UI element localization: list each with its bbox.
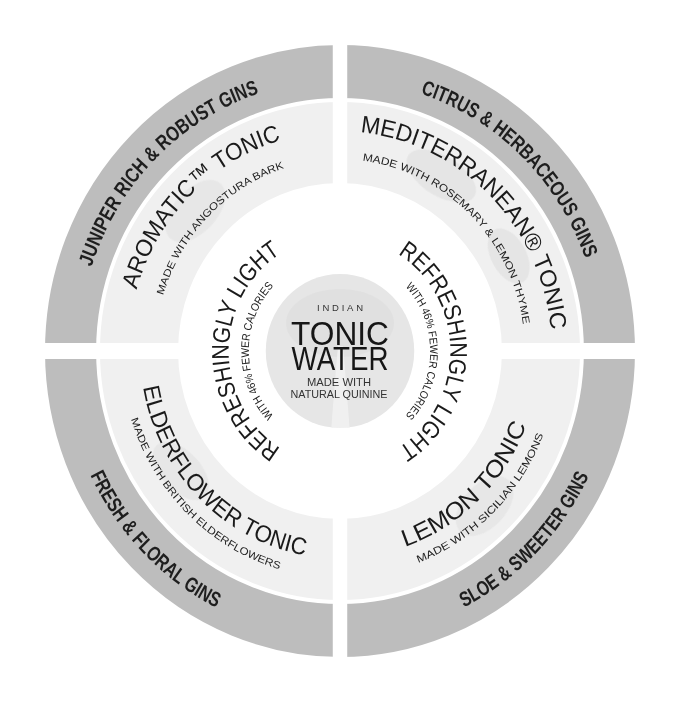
separator-top <box>333 39 347 185</box>
wheel-svg: JUNIPER RICH & ROBUST GINS CITRUS & HERB… <box>0 0 673 705</box>
center-title-line2: WATER <box>292 340 389 377</box>
tonic-gin-pairing-wheel: JUNIPER RICH & ROBUST GINS CITRUS & HERB… <box>0 0 673 705</box>
separator-left <box>39 343 180 359</box>
center-subtitle-line1: MADE WITH <box>307 376 371 388</box>
separator-bottom <box>333 517 347 663</box>
separator-right <box>500 343 641 359</box>
center-subtitle-line2: NATURAL QUININE <box>291 388 388 400</box>
